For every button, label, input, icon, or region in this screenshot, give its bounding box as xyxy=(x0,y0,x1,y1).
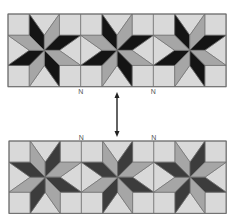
corner-square xyxy=(154,192,175,213)
bottom-strip: NN xyxy=(9,134,226,213)
star-block-1 xyxy=(8,14,81,87)
corner-square xyxy=(153,14,174,35)
corner-square xyxy=(205,65,226,86)
seam-marker-2: N xyxy=(151,88,156,95)
corner-square xyxy=(59,14,80,35)
corner-square xyxy=(154,141,175,162)
corner-square xyxy=(133,192,154,213)
arrow-head-down-icon xyxy=(115,131,120,137)
arrow-head-up-icon xyxy=(115,92,120,98)
star-block-1 xyxy=(9,141,81,213)
quilt-diagram: NNNN xyxy=(0,0,238,217)
star-block-3 xyxy=(154,141,226,213)
corner-square xyxy=(205,192,226,213)
corner-square xyxy=(132,65,153,86)
seam-marker-2: N xyxy=(151,134,156,141)
corner-square xyxy=(9,192,30,213)
corner-square xyxy=(205,141,226,162)
seam-marker-1: N xyxy=(79,134,84,141)
corner-square xyxy=(8,65,29,86)
corner-square xyxy=(81,192,102,213)
top-strip: NN xyxy=(8,14,226,95)
star-block-2 xyxy=(81,14,154,87)
corner-square xyxy=(132,14,153,35)
star-block-2 xyxy=(81,141,153,213)
double-headed-arrow xyxy=(115,92,120,137)
corner-square xyxy=(60,141,81,162)
corner-square xyxy=(153,65,174,86)
corner-square xyxy=(133,141,154,162)
corner-square xyxy=(81,65,102,86)
corner-square xyxy=(8,14,29,35)
corner-square xyxy=(59,65,80,86)
corner-square xyxy=(9,141,30,162)
corner-square xyxy=(81,141,102,162)
corner-square xyxy=(81,14,102,35)
corner-square xyxy=(205,14,226,35)
seam-marker-1: N xyxy=(78,88,83,95)
corner-square xyxy=(60,192,81,213)
star-block-3 xyxy=(153,14,226,87)
